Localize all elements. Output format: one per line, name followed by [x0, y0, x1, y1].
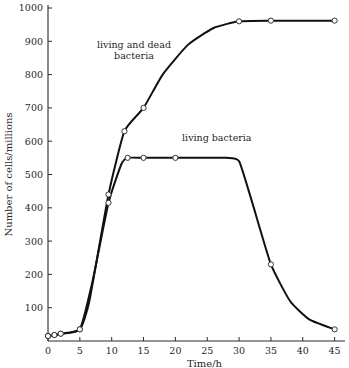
annotation-living-and-dead-bacteria: living and dead	[97, 39, 171, 50]
y-tick-label: 900	[25, 36, 43, 47]
axes-group	[48, 5, 345, 341]
x-tick-label: 15	[137, 345, 149, 356]
data-point-marker	[45, 333, 50, 338]
x-tick-label: 45	[329, 345, 341, 356]
data-point-marker	[236, 19, 241, 24]
x-tick-label: 0	[45, 345, 51, 356]
data-point-marker	[106, 200, 111, 205]
y-tick-label: 800	[25, 69, 43, 80]
data-point-marker	[268, 18, 273, 23]
data-point-marker	[58, 331, 63, 336]
x-tick-label: 40	[297, 345, 309, 356]
annotation-living-bacteria: living bacteria	[182, 132, 252, 143]
data-point-marker	[52, 332, 57, 337]
x-tick-label: 30	[233, 345, 245, 356]
data-point-marker	[106, 192, 111, 197]
x-tick-label: 20	[169, 345, 181, 356]
data-point-marker	[173, 155, 178, 160]
y-axis-title: Number of cells/millions	[3, 112, 14, 236]
y-tick-label: 300	[25, 236, 43, 247]
series-group	[48, 21, 335, 336]
data-point-marker	[268, 262, 273, 267]
data-point-marker	[332, 18, 337, 23]
y-tick-label: 700	[25, 102, 43, 113]
bacterial-growth-chart: 1002003004005006007008009001000 05101520…	[0, 0, 349, 368]
x-tick-label: 5	[77, 345, 83, 356]
data-point-marker	[332, 327, 337, 332]
data-point-marker	[77, 327, 82, 332]
x-tick-label: 35	[265, 345, 277, 356]
y-tick-label: 400	[25, 202, 43, 213]
y-axis-ticks: 1002003004005006007008009001000	[19, 2, 52, 313]
x-axis-title: Time/h	[187, 358, 223, 368]
y-tick-label: 500	[25, 169, 43, 180]
series-annotations-group: living and deadbacterialiving bacteria	[97, 39, 252, 143]
data-point-marker	[141, 105, 146, 110]
y-tick-label: 1000	[19, 2, 43, 13]
x-tick-label: 10	[106, 345, 118, 356]
data-point-marker	[122, 129, 127, 134]
y-tick-label: 600	[25, 136, 43, 147]
data-point-marker	[125, 155, 130, 160]
data-point-marker	[141, 155, 146, 160]
x-axis-ticks: 051015202530354045	[45, 337, 341, 356]
data-markers-group	[45, 18, 337, 339]
annotation-living-and-dead-bacteria-line2: bacteria	[114, 50, 154, 61]
chart-canvas: 1002003004005006007008009001000 05101520…	[0, 0, 349, 368]
x-tick-label: 25	[201, 345, 213, 356]
y-tick-label: 200	[25, 269, 43, 280]
y-tick-label: 100	[25, 302, 43, 313]
series-line-2	[48, 158, 335, 336]
